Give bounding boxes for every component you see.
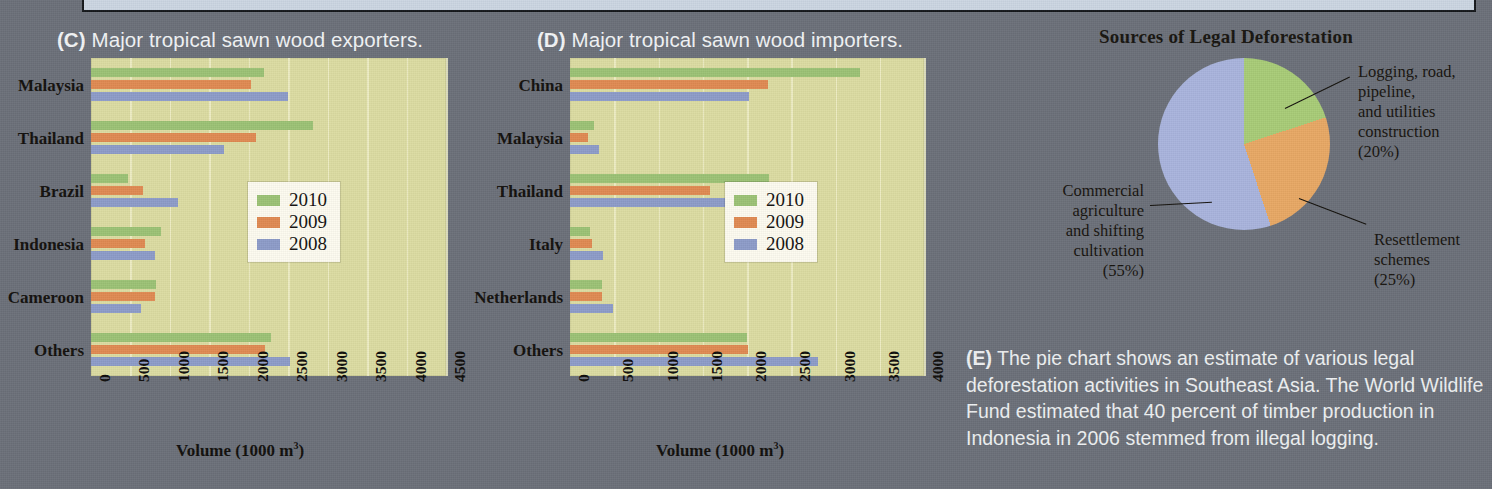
bar-indonesia-2009 <box>91 239 145 248</box>
bar-netherlands-2008 <box>570 304 613 313</box>
bar-italy-2009 <box>570 239 592 248</box>
bar-malaysia-2009 <box>570 133 588 142</box>
bar-malaysia-2008 <box>91 92 288 101</box>
x-tick-label: 2500 <box>293 351 311 382</box>
gridline <box>614 58 616 376</box>
legend-label-2010: 2010 <box>766 189 804 211</box>
legend-item-2009: 2009 <box>257 211 327 233</box>
bar-brazil-2008 <box>91 198 178 207</box>
x-tick-label: 1500 <box>708 351 726 382</box>
category-label-thailand: Thailand <box>497 182 563 202</box>
x-tick-label: 2000 <box>752 351 770 382</box>
bar-others-2008 <box>570 357 818 366</box>
legend-item-2010: 2010 <box>734 189 804 211</box>
x-tick-label: 1000 <box>664 351 682 382</box>
legend-item-2010: 2010 <box>257 189 327 211</box>
category-label-netherlands: Netherlands <box>474 288 563 308</box>
x-tick-label: 1000 <box>175 351 193 382</box>
x-tick-label: 0 <box>575 374 593 382</box>
legend-label-2008: 2008 <box>289 233 327 255</box>
legend-swatch-2009 <box>257 217 280 228</box>
bar-malaysia-2008 <box>570 145 599 154</box>
bar-malaysia-2010 <box>91 68 264 77</box>
category-label-cameroon: Cameroon <box>8 288 84 308</box>
category-label-others: Others <box>513 341 563 361</box>
bar-cameroon-2009 <box>91 292 155 301</box>
pie-label-resettlement: Resettlement schemes (25%) <box>1374 230 1492 290</box>
panel-d-axis-title: Volume (1000 m3) <box>480 440 960 461</box>
x-tick-label: 3500 <box>372 351 390 382</box>
panel-exporters: (C) Major tropical sawn wood exporters. … <box>0 0 480 489</box>
legend-label-2008: 2008 <box>766 233 804 255</box>
gridline <box>659 58 661 376</box>
legend-item-2008: 2008 <box>257 233 327 255</box>
caption-tag: (E) <box>966 347 992 369</box>
gridline <box>170 58 172 376</box>
gridline <box>130 58 132 376</box>
panel-c-axis-title: Volume (1000 m3) <box>0 440 480 461</box>
top-banner <box>82 0 1476 12</box>
pie-title: Sources of Legal Deforestation <box>960 26 1492 48</box>
bar-italy-2010 <box>570 227 590 236</box>
caption-text: The pie chart shows an estimate of vario… <box>966 347 1483 449</box>
bar-china-2008 <box>570 92 749 101</box>
gridline <box>446 58 448 376</box>
panel-c-title-text: Major tropical sawn wood exporters. <box>86 28 423 51</box>
gridline <box>836 58 838 376</box>
gridline <box>367 58 369 376</box>
panel-d-title-text: Major tropical sawn wood importers. <box>566 28 903 51</box>
pie-label-commercial: Commercial agriculture and shifting cult… <box>974 181 1144 281</box>
legend-label-2010: 2010 <box>289 189 327 211</box>
legend-item-2008: 2008 <box>734 233 804 255</box>
x-tick-label: 500 <box>619 359 637 382</box>
x-tick-label: 4500 <box>451 351 469 382</box>
legend-item-2009: 2009 <box>734 211 804 233</box>
legend-swatch-2008 <box>257 239 280 250</box>
x-tick-label: 500 <box>135 359 153 382</box>
x-tick-label: 3000 <box>333 351 351 382</box>
bar-indonesia-2008 <box>91 251 155 260</box>
bar-cameroon-2008 <box>91 304 141 313</box>
legend-swatch-2010 <box>734 195 757 206</box>
category-label-italy: Italy <box>529 235 563 255</box>
bar-cameroon-2010 <box>91 280 156 289</box>
x-tick-label: 4000 <box>929 351 947 382</box>
pie-label-logging: Logging, road, pipeline, and utilities c… <box>1358 62 1492 162</box>
legend-swatch-2009 <box>734 217 757 228</box>
legend-swatch-2008 <box>734 239 757 250</box>
category-label-china: China <box>519 76 563 96</box>
pie-leader-resettlement <box>1299 198 1367 225</box>
category-label-malaysia: Malaysia <box>497 129 563 149</box>
panel-pie-section: Sources of Legal Deforestation Logging, … <box>960 0 1492 489</box>
gridline <box>880 58 882 376</box>
legend-swatch-2010 <box>257 195 280 206</box>
bar-thailand-2009 <box>91 133 256 142</box>
gridline <box>924 58 926 376</box>
bar-others-2010 <box>570 333 747 342</box>
panel-d-legend: 201020092008 <box>725 182 817 262</box>
x-tick-label: 4000 <box>412 351 430 382</box>
bar-thailand-2009 <box>570 186 710 195</box>
panel-c-tag: (C) <box>57 28 86 51</box>
bar-netherlands-2009 <box>570 292 602 301</box>
bar-indonesia-2010 <box>91 227 161 236</box>
category-label-indonesia: Indonesia <box>13 235 84 255</box>
bar-others-2010 <box>91 333 271 342</box>
bar-netherlands-2010 <box>570 280 602 289</box>
legend-label-2009: 2009 <box>766 211 804 233</box>
panel-c-title: (C) Major tropical sawn wood exporters. <box>0 28 480 52</box>
x-tick-label: 1500 <box>214 351 232 382</box>
x-tick-label: 3500 <box>885 351 903 382</box>
bar-thailand-2010 <box>91 121 313 130</box>
bar-brazil-2010 <box>91 174 128 183</box>
bar-china-2010 <box>570 68 860 77</box>
category-label-others: Others <box>34 341 84 361</box>
panel-e-caption: (E) The pie chart shows an estimate of v… <box>966 345 1486 451</box>
bar-thailand-2008 <box>91 145 224 154</box>
category-label-malaysia: Malaysia <box>18 76 84 96</box>
bar-italy-2008 <box>570 251 603 260</box>
panel-d-title: (D) Major tropical sawn wood importers. <box>480 28 960 52</box>
panel-d-tag: (D) <box>537 28 566 51</box>
bar-malaysia-2010 <box>570 121 594 130</box>
legend-label-2009: 2009 <box>289 211 327 233</box>
